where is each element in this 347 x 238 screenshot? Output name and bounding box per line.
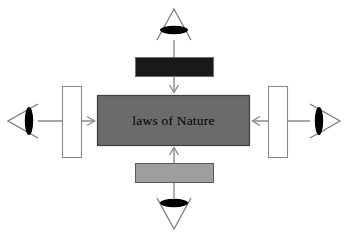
observer-bottom <box>157 198 191 229</box>
left-bar <box>63 87 82 158</box>
eye-bottom-icon <box>160 199 188 207</box>
observer-right <box>310 104 340 138</box>
top-bar <box>136 58 214 77</box>
center-box <box>98 96 250 146</box>
diagram-svg <box>0 0 347 238</box>
observer-left <box>8 104 38 138</box>
diagram-canvas: laws of Nature <box>0 0 347 238</box>
right-bar <box>269 87 288 158</box>
eye-right-icon <box>315 107 323 135</box>
eye-left-icon <box>25 107 33 135</box>
eye-top-icon <box>160 26 188 34</box>
bottom-bar <box>136 164 214 183</box>
observer-top <box>157 9 191 40</box>
